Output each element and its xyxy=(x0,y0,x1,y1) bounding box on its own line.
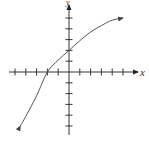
x-axis xyxy=(9,69,138,76)
y-axis xyxy=(66,5,73,135)
x-axis-label: x xyxy=(139,66,145,78)
coordinate-plane: x y xyxy=(0,0,149,143)
y-axis-label: y xyxy=(65,0,70,7)
